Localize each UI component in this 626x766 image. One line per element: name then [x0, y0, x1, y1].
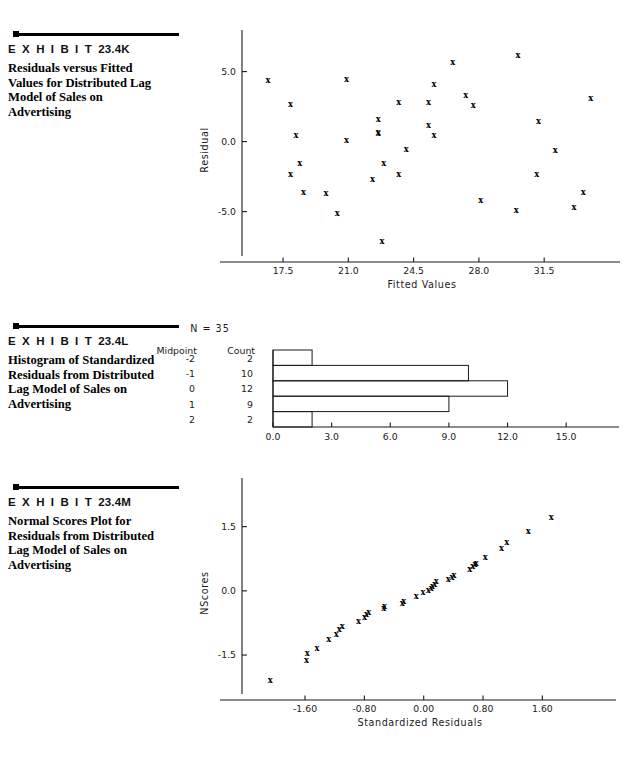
- x-tick-label: 15.0: [556, 431, 577, 442]
- x-tick-label: 28.0: [469, 265, 490, 276]
- count-value: 2: [247, 353, 253, 364]
- data-point: x: [526, 526, 532, 536]
- x-tick-label: 12.0: [497, 431, 518, 442]
- x-tick-label: 17.5: [273, 265, 294, 276]
- exhibit-rule: [8, 483, 188, 493]
- midpoint-value: 0: [189, 383, 195, 394]
- exhibit-block-23-4K: E X H I B I T 23.4K Residuals versus Fit…: [8, 30, 188, 119]
- rule-bar: [16, 486, 179, 489]
- exhibit-block-23-4M: E X H I B I T 23.4M Normal Scores Plot f…: [8, 483, 188, 572]
- x-tick-label: 0.80: [473, 703, 494, 714]
- y-tick-label: 0.0: [221, 585, 236, 596]
- data-point: x: [471, 100, 477, 110]
- exhibit-label-23-4K: E X H I B I T 23.4K: [8, 43, 188, 55]
- data-point: x: [474, 558, 480, 568]
- data-point: x: [268, 675, 274, 685]
- y-tick-label: -5.0: [218, 206, 236, 217]
- histogram-bar: [273, 365, 468, 380]
- data-point: x: [536, 116, 542, 126]
- exhibit-number: 23.4K: [98, 43, 130, 55]
- histogram-standardized-residuals: N = 35MidpointCount-22-11001219220.03.06…: [155, 318, 620, 468]
- data-point: x: [382, 601, 388, 611]
- data-point: x: [396, 169, 402, 179]
- count-value: 2: [247, 414, 253, 425]
- data-point: x: [534, 169, 540, 179]
- data-point: x: [266, 75, 272, 85]
- x-tick-label: -0.80: [352, 703, 376, 714]
- x-tick-label: 3.0: [324, 431, 339, 442]
- exhibit-number: 23.4L: [98, 335, 128, 347]
- data-point: x: [463, 90, 469, 100]
- data-point: x: [301, 187, 307, 197]
- x-tick-label: 0.00: [413, 703, 434, 714]
- x-tick-label: 24.5: [403, 265, 424, 276]
- data-point: x: [344, 74, 350, 84]
- x-tick-label: -1.60: [293, 703, 317, 714]
- data-point: x: [516, 50, 522, 60]
- exhibit-word: E X H I B I T: [8, 496, 93, 508]
- exhibit-word: E X H I B I T: [8, 335, 93, 347]
- data-point: x: [288, 99, 294, 109]
- midpoint-value: 2: [189, 414, 195, 425]
- count-value: 10: [241, 368, 253, 379]
- x-tick-label: 21.0: [338, 265, 359, 276]
- data-point: x: [414, 591, 420, 601]
- normal-scores-plot: -1.60-0.800.000.801.601.50.0-1.5Standard…: [190, 478, 620, 753]
- midpoint-value: -1: [186, 368, 195, 379]
- data-point: x: [434, 576, 440, 586]
- histogram-bar: [273, 350, 312, 365]
- data-point: x: [288, 169, 294, 179]
- y-tick-label: 0.0: [221, 136, 236, 147]
- data-point: x: [381, 158, 387, 168]
- count-value: 9: [247, 399, 253, 410]
- data-point: x: [335, 208, 341, 218]
- x-tick-label: 9.0: [442, 431, 457, 442]
- y-tick-label: 5.0: [221, 66, 236, 77]
- data-point: x: [340, 621, 346, 631]
- exhibit-label-23-4M: E X H I B I T 23.4M: [8, 496, 188, 508]
- x-tick-label: 0.0: [266, 431, 281, 442]
- data-point: x: [588, 93, 594, 103]
- data-point: x: [376, 114, 382, 124]
- histogram-bar: [273, 396, 449, 411]
- data-point: x: [366, 607, 372, 617]
- exhibit-description-23-4K: Residuals versus Fitted Values for Distr…: [8, 61, 168, 119]
- data-point: x: [396, 97, 402, 107]
- sample-size-label: N = 35: [190, 323, 230, 334]
- data-point: x: [452, 570, 458, 580]
- data-point: x: [323, 188, 329, 198]
- data-point: x: [432, 79, 438, 89]
- histogram-bar: [273, 381, 508, 396]
- data-point: x: [553, 145, 559, 155]
- data-point: x: [549, 512, 555, 522]
- y-tick-label: -1.5: [218, 649, 236, 660]
- data-point: x: [478, 195, 484, 205]
- exhibit-rule: [8, 30, 188, 40]
- data-point: x: [294, 130, 300, 140]
- data-point: x: [483, 552, 489, 562]
- data-point: x: [426, 97, 432, 107]
- y-axis-title: Residual: [199, 127, 210, 172]
- data-point: x: [297, 158, 303, 168]
- exhibit-description-23-4M: Normal Scores Plot for Residuals from Di…: [8, 514, 168, 572]
- data-point: x: [432, 130, 438, 140]
- x-tick-label: 31.5: [534, 265, 555, 276]
- histogram-bar: [273, 412, 312, 427]
- data-point: x: [401, 596, 407, 606]
- y-tick-label: 1.5: [221, 521, 236, 532]
- histogram-svg-l: N = 35MidpointCount-22-11001219220.03.06…: [155, 318, 620, 468]
- exhibit-number: 23.4M: [98, 496, 131, 508]
- midpoint-value: -2: [186, 353, 195, 364]
- data-point: x: [514, 205, 520, 215]
- data-point: x: [344, 135, 350, 145]
- y-axis-title: NScores: [199, 571, 210, 614]
- data-point: x: [426, 120, 432, 130]
- midpoint-value: 1: [189, 399, 195, 410]
- data-point: x: [326, 634, 332, 644]
- x-axis-title: Standardized Residuals: [357, 717, 482, 728]
- data-point: x: [404, 144, 410, 154]
- data-point: x: [314, 643, 320, 653]
- x-tick-label: 6.0: [383, 431, 398, 442]
- scatter-svg-k: 17.521.024.528.031.55.00.0-5.0Fitted Val…: [190, 30, 620, 305]
- data-point: x: [450, 57, 456, 67]
